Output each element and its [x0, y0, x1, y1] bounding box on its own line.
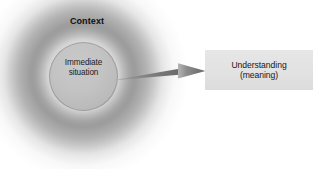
- understanding-label: Understanding (meaning): [231, 60, 286, 80]
- leads-to-arrow: [104, 56, 212, 86]
- understanding-label-line1: Understanding: [231, 60, 286, 70]
- understanding-label-line2: (meaning): [231, 70, 286, 80]
- context-understanding-diagram: Context Immediate situation Understandin…: [0, 0, 319, 169]
- understanding-box: Understanding (meaning): [205, 50, 313, 90]
- context-label: Context: [40, 16, 134, 26]
